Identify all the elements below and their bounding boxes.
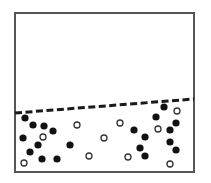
filled-particle: [130, 126, 137, 133]
filled-particle: [172, 119, 179, 126]
open-particle: [101, 135, 107, 141]
filled-particle: [141, 152, 148, 159]
filled-particle: [49, 127, 56, 134]
filled-particle: [26, 148, 33, 155]
filled-particle: [38, 155, 45, 162]
open-particle: [125, 154, 131, 160]
open-particle: [155, 126, 161, 132]
open-particle: [86, 153, 92, 159]
particle-diagram: [0, 0, 211, 183]
filled-particle: [19, 134, 26, 141]
open-particle: [167, 161, 173, 167]
filled-particle: [136, 144, 143, 151]
filled-particle: [29, 121, 36, 128]
filled-particle: [34, 141, 41, 148]
filled-particle: [160, 103, 167, 110]
open-particle: [40, 134, 46, 140]
open-particle: [74, 122, 80, 128]
filled-particle: [53, 155, 60, 162]
filled-particle: [66, 141, 73, 148]
open-particle: [117, 120, 123, 126]
filled-particle: [141, 133, 148, 140]
background: [0, 0, 211, 183]
filled-particle: [21, 114, 28, 121]
open-particle: [174, 108, 180, 114]
filled-particle: [172, 146, 179, 153]
open-particle: [21, 160, 27, 166]
filled-particle: [152, 113, 159, 120]
filled-particle: [40, 122, 47, 129]
filled-particle: [166, 126, 173, 133]
filled-particle: [166, 138, 173, 145]
